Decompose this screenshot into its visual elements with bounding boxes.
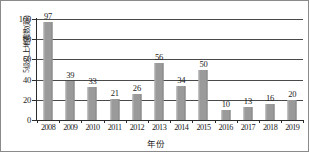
bar-slot: 10 [215,19,237,120]
bar-2013 [155,63,164,120]
x-tick-label-2017: 2017 [236,124,260,132]
x-tick-mark [215,120,216,123]
bar-value-2010: 33 [88,77,96,86]
bar-slot: 50 [192,19,214,120]
bar-value-2013: 56 [155,53,163,62]
bar-value-2014: 34 [177,76,185,85]
x-tick-mark [259,120,260,123]
plot-area: 97 39 33 21 26 56 34 50 [37,19,303,120]
x-tick-mark [192,120,193,123]
bar-slot: 13 [237,19,259,120]
x-tick-label-2014: 2014 [169,124,193,132]
bar-2016 [221,110,230,120]
bar-slot: 56 [148,19,170,120]
x-tick-label-2008: 2008 [36,124,60,132]
bar-value-2019: 20 [288,90,296,99]
bar-2008 [44,22,53,120]
y-tick-mark-0 [32,120,36,121]
bar-slot: 33 [81,19,103,120]
bar-2009 [66,81,75,120]
y-tick-mark-20 [32,100,36,101]
bar-value-2015: 50 [199,60,207,69]
y-tick-mark-40 [32,80,36,81]
bar-2012 [132,94,141,120]
bar-chart-figure: 97 39 33 21 26 56 34 50 [0,0,309,152]
x-tick-mark [81,120,82,123]
x-tick-label-2009: 2009 [58,124,82,132]
bar-slot: 26 [126,19,148,120]
bar-value-2017: 13 [244,97,252,106]
x-tick-label-2016: 2016 [214,124,238,132]
y-tick-mark-80 [32,39,36,40]
bar-slot: 20 [281,19,303,120]
x-tick-mark [126,120,127,123]
y-tick-label-0: 0 [9,116,31,125]
bar-value-2018: 16 [266,94,274,103]
y-tick-label-20: 20 [9,96,31,105]
bar-2015 [199,70,208,121]
bar-slot: 21 [104,19,126,120]
bar-slot: 16 [259,19,281,120]
x-tick-label-2018: 2018 [258,124,282,132]
y-tick-mark-60 [32,59,36,60]
x-tick-label-2010: 2010 [81,124,105,132]
x-tick-mark [281,120,282,123]
x-tick-label-2013: 2013 [147,124,171,132]
x-tick-mark [170,120,171,123]
bar-value-2016: 10 [222,100,230,109]
bar-slot: 34 [170,19,192,120]
x-tick-mark [37,120,38,123]
bar-2011 [110,99,119,120]
bar-value-2012: 26 [133,84,141,93]
bar-slot: 97 [37,19,59,120]
bar-2017 [243,107,252,120]
bar-value-2009: 39 [66,71,74,80]
x-tick-mark [303,120,304,123]
bar-2010 [88,87,97,120]
bar-2014 [177,86,186,120]
y-axis-label: 5级以上地震数(起) [21,1,31,87]
y-tick-mark-100 [32,19,36,20]
bar-2019 [288,100,297,120]
x-tick-mark [104,120,105,123]
x-tick-label-2015: 2015 [192,124,216,132]
x-tick-mark [237,120,238,123]
y-axis-line [36,18,37,121]
x-tick-label-2012: 2012 [125,124,149,132]
bar-value-2011: 21 [111,89,119,98]
bar-slot: 39 [59,19,81,120]
x-axis-label: 年份 [1,137,309,149]
x-tick-label-2019: 2019 [280,124,304,132]
x-tick-mark [59,120,60,123]
x-tick-label-2011: 2011 [103,124,127,132]
x-tick-mark [148,120,149,123]
bar-value-2008: 97 [44,12,52,21]
bar-2018 [266,104,275,120]
